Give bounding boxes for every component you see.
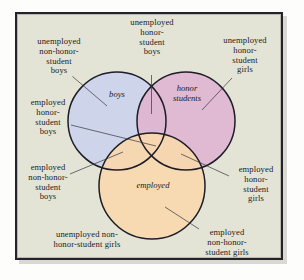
label-employed-non-honor-student-girls: employed non-honor- student girls <box>186 228 268 257</box>
circle-label-employed: employed <box>120 181 186 191</box>
label-unemployed-non-honor-student-boys: unemployed non-honor- student boys <box>20 37 98 76</box>
label-unemployed-honor-student-boys: unemployed honor- student boys <box>112 18 192 57</box>
label-employed-honor-student-boys: employed honor- student boys <box>17 98 79 137</box>
circle-label-boys: boys <box>92 90 142 100</box>
venn-diagram-figure: boys honor students employed unemployed … <box>0 0 304 280</box>
label-employed-honor-student-girls: employed honor- student girls <box>228 165 284 204</box>
label-unemployed-non-honor-student-girls: unemployed non- honor-student girls <box>36 230 138 250</box>
label-unemployed-honor-student-girls: unemployed honor- student girls <box>208 36 282 75</box>
circle-label-honor-students: honor students <box>161 84 213 103</box>
label-employed-non-honor-student-boys: employed non-honor- student boys <box>17 163 79 202</box>
